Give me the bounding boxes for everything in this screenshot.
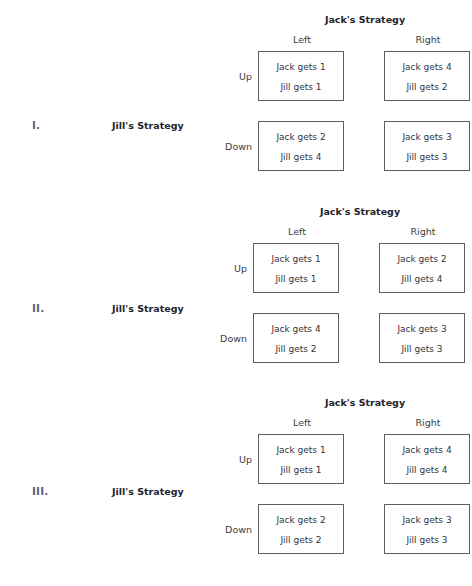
jill-strategy-title: Jill's Strategy [112,486,184,497]
payoff-cell-up-left: Jack gets 1 Jill gets 1 [258,51,344,101]
payoff-jill: Jill gets 2 [259,535,343,545]
payoff-jill: Jill gets 3 [385,535,469,545]
payoff-jill: Jill gets 3 [380,344,464,354]
payoff-jack: Jack gets 2 [259,515,343,525]
payoff-jill: Jill gets 4 [380,274,464,284]
payoff-cell-up-left: Jack gets 1 Jill gets 1 [258,434,344,484]
payoff-jill: Jill gets 1 [254,274,338,284]
payoff-jack: Jack gets 2 [380,254,464,264]
payoff-cell-up-right: Jack gets 4 Jill gets 2 [384,51,470,101]
row-header-down: Down [211,333,247,344]
payoff-cell-up-right: Jack gets 2 Jill gets 4 [379,243,465,293]
row-header-up: Up [216,71,252,82]
payoff-jill: Jill gets 3 [385,152,469,162]
column-header-left: Left [258,34,346,45]
payoff-jill: Jill gets 4 [259,152,343,162]
payoff-jack: Jack gets 4 [385,62,469,72]
payoff-cell-down-left: Jack gets 4 Jill gets 2 [253,313,339,363]
column-header-right: Right [379,226,467,237]
game-numeral: III. [32,485,49,497]
payoff-jill: Jill gets 1 [259,465,343,475]
jack-strategy-title: Jack's Strategy [258,14,472,25]
payoff-cell-down-left: Jack gets 2 Jill gets 2 [258,504,344,554]
payoff-cell-down-right: Jack gets 3 Jill gets 3 [379,313,465,363]
game-numeral: I. [32,119,40,131]
game-numeral: II. [32,302,44,314]
payoff-jill: Jill gets 2 [385,82,469,92]
column-header-right: Right [384,34,472,45]
row-header-down: Down [216,141,252,152]
payoff-jack: Jack gets 1 [254,254,338,264]
row-header-down: Down [216,524,252,535]
payoff-jack: Jack gets 4 [254,324,338,334]
column-header-left: Left [253,226,341,237]
payoff-jill: Jill gets 4 [385,465,469,475]
payoff-cell-down-left: Jack gets 2 Jill gets 4 [258,121,344,171]
payoff-jack: Jack gets 4 [385,445,469,455]
jill-strategy-title: Jill's Strategy [112,303,184,314]
jack-strategy-title: Jack's Strategy [258,397,472,408]
jill-strategy-title: Jill's Strategy [112,120,184,131]
payoff-cell-down-right: Jack gets 3 Jill gets 3 [384,121,470,171]
payoff-jack: Jack gets 3 [385,515,469,525]
payoff-jack: Jack gets 3 [380,324,464,334]
payoff-jack: Jack gets 2 [259,132,343,142]
payoff-jack: Jack gets 3 [385,132,469,142]
payoff-jack: Jack gets 1 [259,445,343,455]
payoff-cell-up-right: Jack gets 4 Jill gets 4 [384,434,470,484]
payoff-jill: Jill gets 1 [259,82,343,92]
row-header-up: Up [211,263,247,274]
row-header-up: Up [216,454,252,465]
jack-strategy-title: Jack's Strategy [253,206,467,217]
column-header-left: Left [258,417,346,428]
payoff-cell-up-left: Jack gets 1 Jill gets 1 [253,243,339,293]
payoff-jill: Jill gets 2 [254,344,338,354]
payoff-jack: Jack gets 1 [259,62,343,72]
payoff-cell-down-right: Jack gets 3 Jill gets 3 [384,504,470,554]
column-header-right: Right [384,417,472,428]
